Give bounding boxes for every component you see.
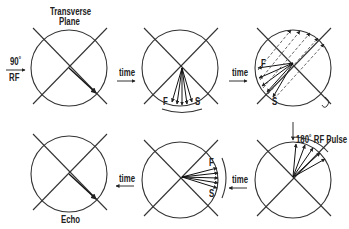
step-6-circle [31,134,107,212]
step-5-circle [142,140,226,218]
fast-label-5: F [209,157,214,168]
time-label-4: time [119,173,135,184]
rf-angle-label: 90˚ [10,56,21,67]
step-4-circle [255,137,331,218]
slow-label-2: S [195,96,200,107]
slow-label-3: S [272,96,277,107]
slow-label-5: S [209,188,214,199]
time-label-2: time [232,67,248,78]
time-label-1: time [119,67,135,78]
transverse-plane-label-2: Plane [59,16,80,27]
fast-label-2: F [163,96,168,107]
pulse-180-label: 180˚ RF Pulse [296,134,347,145]
time-label-3: time [232,174,248,185]
echo-label: Echo [61,214,80,225]
step-1-circle [31,28,107,106]
rf-label: RF [9,72,19,83]
fast-label-3: F [261,58,266,69]
step-2-circle [142,28,218,113]
step-3-circle [255,28,331,107]
spin-echo-diagram [0,0,349,229]
